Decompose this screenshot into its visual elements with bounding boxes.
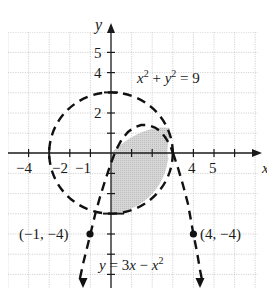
parabola-equation-label: y = 3x − x2: [97, 255, 163, 273]
point-label-neg1-neg4: (−1, −4): [19, 226, 68, 243]
point-4-neg4: [190, 230, 197, 237]
parabola-left-arrow-icon: [79, 278, 88, 288]
x-tick-label: −1: [75, 160, 91, 176]
parabola-right-arrow-icon: [196, 278, 205, 288]
y-tick-label: 5: [94, 45, 102, 61]
x-tick-label: 4: [188, 160, 196, 176]
circle-equation-label: x2 + y2 = 9: [136, 68, 200, 86]
y-tick-label: 4: [94, 65, 102, 81]
y-axis-arrow-icon: [107, 23, 115, 33]
shaded-region: [111, 128, 170, 214]
y-tick-label: 2: [94, 105, 102, 121]
point-neg1-neg4: [86, 230, 93, 237]
x-tick-label: 5: [209, 160, 217, 176]
y-axis-label: y: [93, 16, 103, 34]
point-label-4-neg4: (4, −4): [200, 226, 241, 243]
graph-figure: y x −4 −2 −1 4 5 5 4 2 x2 + y2 = 9 y = 3…: [0, 0, 267, 288]
x-tick-label: −2: [52, 160, 68, 176]
x-tick-label: −4: [16, 160, 32, 176]
x-axis-arrow-icon: [252, 149, 262, 157]
x-axis-label: x: [261, 160, 267, 176]
